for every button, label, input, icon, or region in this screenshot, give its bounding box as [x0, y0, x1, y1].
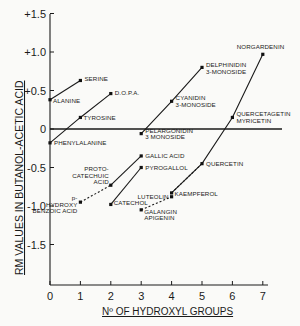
x-tick-label: 4: [169, 290, 175, 302]
y-tick-label: +1.0: [24, 46, 46, 58]
point-labels: SERINEALANINED.O.P.A.TYROSINEPHENYLALANI…: [33, 43, 291, 221]
x-tick-label: 3: [138, 290, 144, 302]
point-label: GALLIC ACID: [145, 152, 185, 159]
data-point: [109, 184, 112, 187]
point-label: CYANIDIN3-MONOSIDE: [176, 94, 216, 108]
data-point: [79, 79, 82, 82]
data-point: [140, 154, 143, 157]
data-point: [109, 203, 112, 206]
y-tick-label: +0.5: [24, 85, 46, 97]
point-label: GALANGINAPIGENIN: [144, 208, 177, 222]
point-label: D.O.P.A.: [115, 89, 140, 96]
data-point: [170, 191, 173, 194]
data-point: [170, 195, 173, 198]
point-label: LUTEOLIN: [138, 193, 169, 200]
data-point: [140, 132, 143, 135]
y-tick-label: 0: [40, 123, 46, 135]
y-axis-label: RM VALUES IN BUTANOL-ACETIC ACID: [13, 80, 25, 275]
data-point: [79, 116, 82, 119]
point-label: DELPHINIDIN3-MONOSIDE: [206, 61, 246, 75]
axes: [50, 14, 282, 285]
point-label: PHENYLALANINE: [54, 139, 107, 146]
data-point: [200, 66, 203, 69]
data-point: [140, 166, 143, 169]
data-point: [140, 208, 143, 211]
data-point: [261, 53, 264, 56]
x-axis-ticks: 01234567: [47, 281, 266, 302]
x-tick-label: 0: [47, 290, 53, 302]
point-label: QUERCETIN: [206, 160, 243, 167]
series-line: [80, 185, 110, 202]
chart: +1.5+1.0+0.50-0.5-1.0-1.5 01234567 SERIN…: [0, 0, 300, 326]
data-point: [170, 100, 173, 103]
point-label: PYROGALLOL: [145, 164, 188, 171]
x-tick-label: 5: [199, 290, 205, 302]
x-tick-label: 1: [77, 290, 83, 302]
point-label: ALANINE: [53, 97, 80, 104]
data-point: [109, 92, 112, 95]
point-label: PROTO-CATECHUICACID: [72, 165, 109, 185]
data-point: [48, 141, 51, 144]
x-axis-label: Nº OF HYDROXYL GROUPS: [102, 306, 233, 317]
x-tick-label: 2: [108, 290, 114, 302]
y-tick-label: -0.5: [27, 162, 46, 174]
point-label: CATECHOL: [114, 199, 148, 206]
data-point: [200, 162, 203, 165]
data-point: [48, 98, 51, 101]
data-point: [231, 116, 234, 119]
point-label: NORGARDENIN: [237, 43, 285, 50]
point-label: TYROSINE: [83, 114, 115, 121]
y-tick-label: -1.5: [27, 239, 46, 251]
series-line: [111, 156, 141, 185]
x-tick-label: 7: [260, 290, 266, 302]
x-tick-label: 6: [229, 290, 235, 302]
y-tick-label: +1.5: [24, 8, 46, 20]
data-point: [79, 201, 82, 204]
point-label: KAEMPFEROL: [175, 190, 219, 197]
point-label: QUERCETAGETINMYRICETIN: [236, 110, 290, 124]
point-label: SERINE: [84, 75, 108, 82]
point-label: PELARGONIDIN3 MONOSIDE: [145, 127, 193, 141]
